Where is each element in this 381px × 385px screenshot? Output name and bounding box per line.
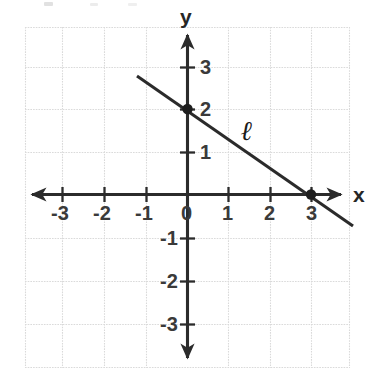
x-tick-label-neg3: -3 <box>51 203 69 223</box>
point-y-intercept <box>182 104 192 114</box>
line-label-l: ℓ <box>241 118 253 145</box>
point-x-intercept <box>306 189 316 199</box>
line-l <box>137 76 353 226</box>
x-tick-label-neg2: -2 <box>93 203 111 223</box>
y-tick-label-neg3: -3 <box>160 314 178 334</box>
y-axis-label: y <box>180 6 192 27</box>
y-tick-label-neg1: -1 <box>160 228 178 248</box>
x-tick-label-2: 2 <box>264 203 275 223</box>
y-tick-label-2: 2 <box>200 99 211 119</box>
x-tick-label-1: 1 <box>222 203 233 223</box>
y-tick-label-neg2: -2 <box>160 271 178 291</box>
axis-lines <box>32 35 341 358</box>
x-tick-label-0: 0 <box>181 203 192 223</box>
x-axis-label: x <box>353 184 365 205</box>
x-tick-label-neg1: -1 <box>135 203 153 223</box>
y-tick-label-1: 1 <box>200 142 211 162</box>
graph-figure: y x -3 -2 -1 0 1 2 3 3 2 1 -1 -2 -3 ℓ <box>0 0 381 385</box>
coordinate-plane <box>0 0 381 385</box>
y-tick-label-3: 3 <box>200 57 211 77</box>
x-tick-label-3: 3 <box>306 203 317 223</box>
